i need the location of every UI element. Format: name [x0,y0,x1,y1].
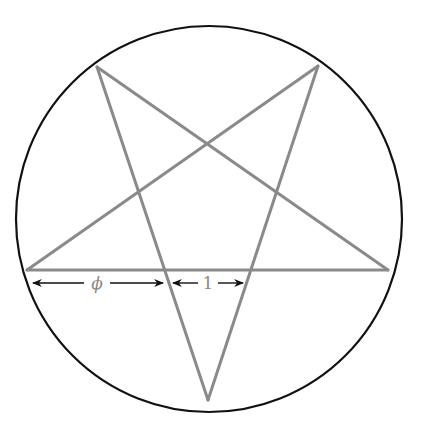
unit-length-annotation: 1 [173,273,243,293]
pentagram-diagram: ϕ 1 [0,0,421,424]
star-edge-top-right-to-left [27,66,318,270]
star-edge-top-left-to-bottom [97,67,208,400]
star-edge-bottom-to-top-right [208,66,318,400]
phi-label: ϕ [91,273,103,293]
one-label: 1 [203,273,214,293]
pentagram [27,66,388,400]
circumscribed-circle [16,26,402,412]
phi-length-annotation: ϕ [33,273,163,293]
star-edge-right-to-top-left [97,67,388,270]
